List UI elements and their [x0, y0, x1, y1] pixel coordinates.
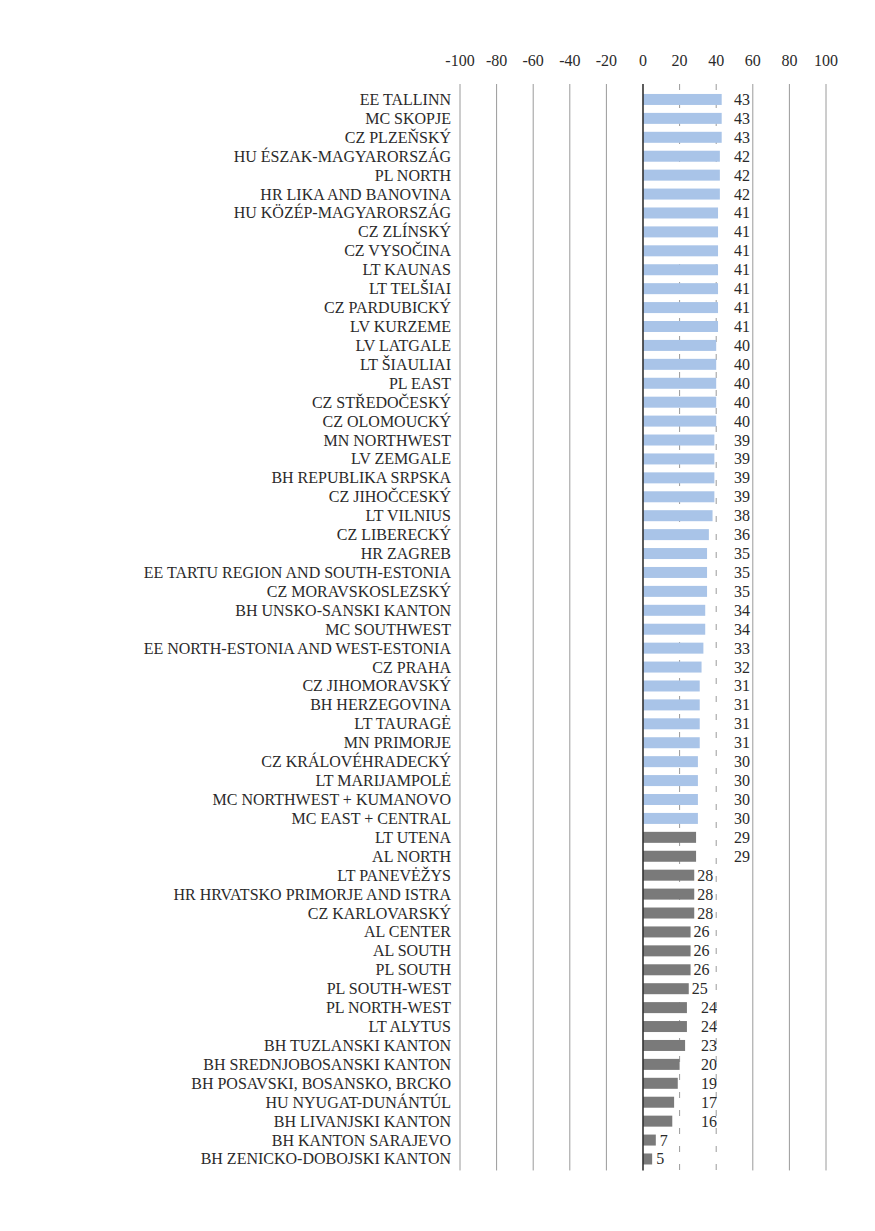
x-tick-label: 60 [745, 52, 761, 69]
category-label: CZ LIBERECKÝ [337, 525, 452, 543]
x-tick-label: -100 [445, 52, 474, 69]
bar [643, 775, 698, 786]
category-label: CZ MORAVSKOSLEZSKÝ [267, 582, 452, 600]
category-label: CZ ZLÍNSKÝ [358, 222, 451, 240]
category-label: MC EAST + CENTRAL [292, 810, 451, 827]
value-label: 26 [694, 961, 710, 978]
value-label: 30 [734, 810, 750, 827]
value-label: 20 [701, 1056, 717, 1073]
category-label: BH LIVANJSKI KANTON [274, 1113, 452, 1130]
value-label: 31 [734, 677, 750, 694]
bar [643, 397, 716, 408]
value-label: 40 [734, 394, 750, 411]
bar [643, 283, 718, 294]
category-label: LT KAUNAS [363, 261, 451, 278]
category-label: EE TALLINN [360, 91, 452, 108]
category-label: HR LIKA AND BANOVINA [260, 186, 451, 203]
value-label: 26 [694, 923, 710, 940]
bar [643, 529, 709, 540]
category-label: CZ KRÁLOVÉHRADECKÝ [261, 752, 451, 770]
bar [643, 132, 722, 143]
value-label: 40 [734, 356, 750, 373]
x-tick-label: -20 [596, 52, 617, 69]
bar [643, 151, 720, 162]
category-label: BH POSAVSKI, BOSANSKO, BRCKO [191, 1075, 451, 1092]
bar [643, 113, 722, 124]
bar [643, 1002, 687, 1013]
bar [643, 321, 718, 332]
category-label: MN PRIMORJE [344, 734, 451, 751]
bar [643, 680, 700, 691]
value-label: 35 [734, 545, 750, 562]
value-label: 41 [734, 242, 750, 259]
x-tick-label: -80 [486, 52, 507, 69]
value-label: 17 [701, 1094, 717, 1111]
bar [643, 964, 691, 975]
value-label: 43 [734, 110, 750, 127]
category-label: LT MARIJAMPOLĖ [315, 772, 451, 789]
bar [643, 378, 716, 389]
category-label: CZ PARDUBICKÝ [324, 298, 451, 316]
value-label: 43 [734, 129, 750, 146]
category-label: HU KÖZÉP-MAGYARORSZÁG [234, 203, 452, 221]
value-label: 32 [734, 659, 750, 676]
category-label: PL NORTH [375, 167, 452, 184]
bar [643, 302, 718, 313]
category-label: LV LATGALE [355, 337, 451, 354]
category-label: LT TAURAGĖ [354, 715, 451, 732]
value-label: 39 [734, 432, 750, 449]
value-label: 41 [734, 299, 750, 316]
category-label: EE TARTU REGION AND SOUTH-ESTONIA [144, 564, 452, 581]
value-label: 41 [734, 280, 750, 297]
value-label: 24 [701, 999, 717, 1016]
value-label: 28 [697, 867, 713, 884]
category-label: CZ PRAHA [372, 659, 451, 676]
value-label: 39 [734, 488, 750, 505]
category-label: HR HRVATSKO PRIMORJE AND ISTRA [173, 886, 451, 903]
category-label: CZ JIHOČCESKÝ [329, 487, 452, 505]
category-label: PL NORTH-WEST [326, 999, 451, 1016]
bar [643, 643, 703, 654]
x-tick-label: 100 [814, 52, 838, 69]
category-label: BH REPUBLIKA SRPSKA [271, 469, 451, 486]
x-tick-label: 40 [708, 52, 724, 69]
bar [643, 1040, 685, 1051]
bar [643, 870, 694, 881]
category-label: HR ZAGREB [361, 545, 451, 562]
value-label: 5 [656, 1150, 664, 1167]
bar [643, 94, 722, 105]
value-label: 7 [660, 1132, 668, 1149]
category-label: LT TELŠIAI [369, 279, 451, 297]
value-label: 26 [694, 942, 710, 959]
value-label: 29 [734, 829, 750, 846]
category-label: CZ STŘEDOČESKÝ [312, 393, 452, 411]
x-tick-label: 80 [781, 52, 797, 69]
bar [643, 1153, 652, 1164]
value-label: 35 [734, 564, 750, 581]
bar [643, 699, 700, 710]
category-label: AL SOUTH [373, 942, 452, 959]
value-label: 40 [734, 413, 750, 430]
category-label: CZ JIHOMORAVSKÝ [302, 676, 451, 694]
category-label: LV KURZEME [350, 318, 451, 335]
value-label: 19 [701, 1075, 717, 1092]
value-label: 30 [734, 772, 750, 789]
bar [643, 794, 698, 805]
value-label: 31 [734, 696, 750, 713]
value-label: 33 [734, 640, 750, 657]
bar [643, 340, 716, 351]
value-label: 39 [734, 450, 750, 467]
category-label: BH HERZEGOVINA [310, 696, 451, 713]
category-label: HU ÉSZAK-MAGYARORSZÁG [234, 147, 452, 165]
value-label: 31 [734, 734, 750, 751]
value-label: 29 [734, 848, 750, 865]
x-tick-label: -40 [559, 52, 580, 69]
bar [643, 1135, 656, 1146]
category-label: CZ VYSOČINA [344, 241, 451, 259]
category-label: CZ KARLOVARSKÝ [308, 904, 452, 922]
value-label: 25 [692, 980, 708, 997]
bar [643, 264, 718, 275]
category-labels: EE TALLINNMC SKOPJECZ PLZEŇSKÝHU ÉSZAK-M… [144, 91, 452, 1168]
category-label: MC NORTHWEST + KUMANOVO [213, 791, 451, 808]
value-label: 38 [734, 507, 750, 524]
